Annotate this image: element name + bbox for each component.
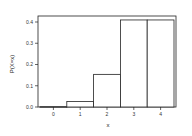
- bar-4: [147, 20, 174, 107]
- x-axis-label: x: [107, 122, 110, 128]
- x-tick-label: 0: [52, 111, 55, 117]
- bars: [40, 20, 174, 107]
- y-tick-label: 0.1: [26, 83, 33, 89]
- y-axis: 0.00.10.20.30.4: [26, 19, 38, 110]
- y-axis-label: P(X=x): [9, 55, 15, 74]
- histogram-chart: 0.00.10.20.30.4 01234 x P(X=x): [0, 0, 192, 136]
- bar-2: [94, 74, 121, 107]
- y-tick-label: 0.3: [26, 40, 33, 46]
- bar-1: [67, 102, 94, 107]
- x-tick-label: 2: [106, 111, 109, 117]
- y-tick-label: 0.2: [26, 61, 33, 67]
- x-tick-label: 4: [159, 111, 162, 117]
- y-tick-label: 0.0: [26, 104, 33, 110]
- x-tick-label: 3: [132, 111, 135, 117]
- y-tick-label: 0.4: [26, 19, 33, 25]
- x-tick-label: 1: [79, 111, 82, 117]
- x-axis: 01234: [52, 107, 162, 117]
- bar-3: [120, 20, 147, 107]
